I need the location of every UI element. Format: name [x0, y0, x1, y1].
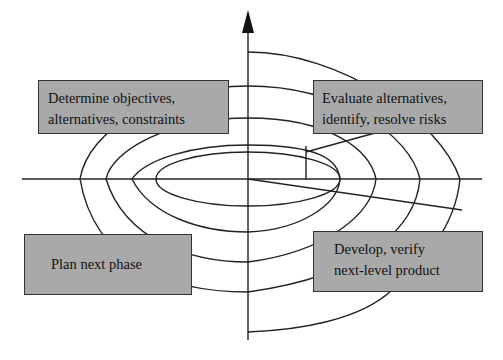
label-line: Develop, verify	[334, 239, 482, 260]
quadrant-determine-objectives: Determine objectives, alternatives, cons…	[38, 80, 229, 134]
spiral-model-diagram: Determine objectives, alternatives, cons…	[0, 0, 503, 360]
label-line: identify, resolve risks	[322, 109, 482, 130]
quadrant-plan-next-phase: Plan next phase	[24, 234, 192, 295]
risk-line	[306, 133, 375, 152]
label-line: alternatives, constraints	[48, 109, 228, 130]
label-line: Evaluate alternatives,	[322, 88, 482, 109]
label-line: next-level product	[334, 260, 482, 281]
quadrant-evaluate-alternatives: Evaluate alternatives, identify, resolve…	[313, 80, 483, 134]
label-line: Determine objectives,	[48, 88, 228, 109]
arrow-up-icon	[242, 10, 254, 33]
radial-line	[248, 179, 462, 210]
quadrant-develop-verify: Develop, verify next-level product	[313, 231, 483, 292]
spiral-lines	[0, 0, 503, 360]
label-line: Plan next phase	[51, 254, 191, 275]
